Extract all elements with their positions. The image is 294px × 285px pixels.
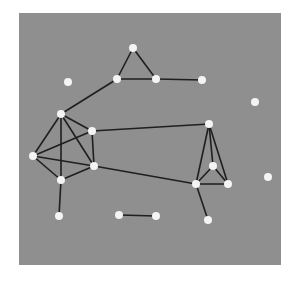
graph-node-N bbox=[198, 76, 206, 84]
graph-node-B bbox=[88, 127, 96, 135]
graph-node-O bbox=[64, 78, 72, 86]
graph-node-T bbox=[152, 212, 160, 220]
graph-node-G bbox=[209, 162, 217, 170]
graph-node-J bbox=[204, 216, 212, 224]
graph-node-C bbox=[29, 152, 37, 160]
graph-node-D bbox=[90, 162, 98, 170]
graph-edge-M-N bbox=[156, 79, 202, 80]
graph-node-R bbox=[55, 212, 63, 220]
graph-node-P bbox=[251, 98, 259, 106]
graph-node-A bbox=[57, 110, 65, 118]
diagram-panel bbox=[19, 13, 281, 265]
graph-node-E bbox=[57, 176, 65, 184]
graph-node-M bbox=[152, 75, 160, 83]
graph-node-K bbox=[129, 44, 137, 52]
graph-node-I bbox=[224, 180, 232, 188]
graph-node-Q bbox=[264, 173, 272, 181]
graph-edge-S-T bbox=[119, 215, 156, 216]
graph-node-S bbox=[115, 211, 123, 219]
graph-node-H bbox=[192, 180, 200, 188]
graph-diagram bbox=[0, 0, 294, 285]
graph-node-F bbox=[205, 120, 213, 128]
graph-node-L bbox=[113, 75, 121, 83]
